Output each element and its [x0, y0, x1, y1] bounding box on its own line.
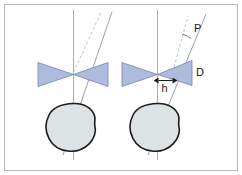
right-panel: P D h [122, 10, 206, 160]
left-panel [38, 10, 112, 160]
diagram-canvas: P D h [0, 0, 242, 175]
sample-blob-left [46, 103, 95, 151]
bowtie-right-wing-left [122, 63, 158, 87]
offset-label-h: h [162, 82, 168, 94]
angle-label-p: P [194, 22, 201, 34]
angle-arc-p [182, 34, 191, 38]
dashed-ray-left [74, 12, 102, 73]
figure-root: P D h [0, 0, 242, 175]
bowtie-left-wing-left [38, 63, 74, 87]
detector-label-d: D [196, 66, 204, 78]
bowtie-left-wing-right [74, 63, 109, 87]
sample-blob-right [130, 103, 179, 151]
